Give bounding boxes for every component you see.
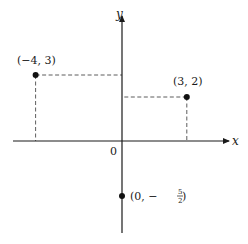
y-axis-label: y <box>115 7 123 21</box>
label-prefix: (0, − <box>130 190 158 203</box>
point-label-0-neg5half: (0, − 5 2 ) <box>130 188 186 205</box>
origin-label: 0 <box>110 145 117 158</box>
x-axis-label: x <box>232 134 239 148</box>
label-suffix: ) <box>182 190 186 203</box>
point-label-neg4-3: (−4, 3) <box>17 54 56 67</box>
data-point-1 <box>184 94 190 100</box>
data-point-0 <box>33 72 39 78</box>
data-point-2 <box>119 193 125 199</box>
coordinate-plane: x y 0 (−4, 3) (3, 2) (0, − 5 2 ) <box>0 0 248 244</box>
point-label-3-2: (3, 2) <box>173 75 203 88</box>
